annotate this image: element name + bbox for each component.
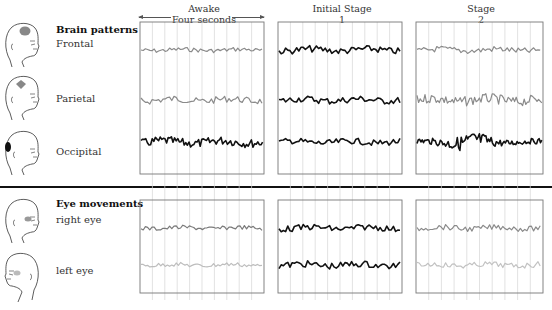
trace-parietal-awake [141, 96, 262, 104]
trace-frontal-awake [141, 48, 262, 53]
trace-frontal-stage2 [417, 46, 540, 53]
trace-occipital-initial [279, 138, 400, 145]
trace-left-eye-initial [279, 261, 400, 269]
trace-left-eye-awake [141, 263, 262, 267]
trace-frontal-initial [279, 46, 400, 54]
trace-right-eye-awake [141, 225, 262, 230]
trace-right-eye-stage2 [417, 225, 540, 232]
trace-parietal-initial [279, 96, 400, 104]
eeg-panels [0, 0, 552, 310]
trace-left-eye-stage2 [417, 262, 540, 268]
trace-right-eye-initial [279, 225, 400, 232]
